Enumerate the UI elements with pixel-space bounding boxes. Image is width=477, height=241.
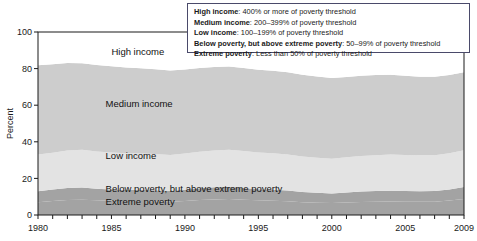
legend-term: High income (194, 7, 238, 16)
x-tick-label: 1980 (28, 223, 48, 233)
y-tick-label: 0 (27, 210, 32, 220)
legend-term: Medium income (194, 18, 250, 27)
x-tick-label: 2000 (322, 223, 342, 233)
legend-desc: : 100–199% of poverty threshold (237, 28, 343, 37)
x-tick-label: 1985 (101, 223, 121, 233)
band-label: Extreme poverty (106, 196, 175, 207)
band-label: Low income (106, 150, 157, 161)
legend-item: Below poverty, but above extreme poverty… (194, 39, 464, 50)
band-label: Below poverty, but above extreme poverty (106, 183, 283, 194)
legend-desc: : 400% or more of poverty threshold (238, 7, 356, 16)
legend-term: Extreme poverty (194, 49, 252, 58)
legend-desc: : Less than 50% of poverty threshold (252, 49, 372, 58)
x-tick-label: 2005 (395, 223, 415, 233)
area-band (38, 63, 464, 159)
x-tick-label: 1995 (248, 223, 268, 233)
legend-term: Low income (194, 28, 237, 37)
x-tick-label: 2009 (454, 223, 474, 233)
y-axis-title-group: Percent (5, 107, 15, 139)
y-axis-title: Percent (5, 107, 15, 139)
band-label: Medium income (106, 98, 173, 109)
legend-desc: : 50–99% of poverty threshold (342, 39, 440, 48)
band-label: High income (111, 46, 164, 57)
legend-item: Low income: 100–199% of poverty threshol… (194, 28, 464, 39)
legend-item: Medium income: 200–399% of poverty thres… (194, 18, 464, 29)
legend-box: High income: 400% or more of poverty thr… (187, 3, 470, 53)
x-tick-label: 1990 (175, 223, 195, 233)
y-tick-label: 60 (22, 100, 32, 110)
y-tick-label: 40 (22, 137, 32, 147)
y-tick-label: 80 (22, 64, 32, 74)
legend-item: High income: 400% or more of poverty thr… (194, 7, 464, 18)
y-tick-label: 20 (22, 174, 32, 184)
legend-desc: : 200–399% of poverty threshold (250, 18, 356, 27)
legend-item: Extreme poverty: Less than 50% of povert… (194, 49, 464, 60)
y-tick-label: 100 (17, 27, 32, 37)
chart-figure: 0204060801001980198519901995200020052009… (0, 0, 477, 241)
legend-term: Below poverty, but above extreme poverty (194, 39, 342, 48)
